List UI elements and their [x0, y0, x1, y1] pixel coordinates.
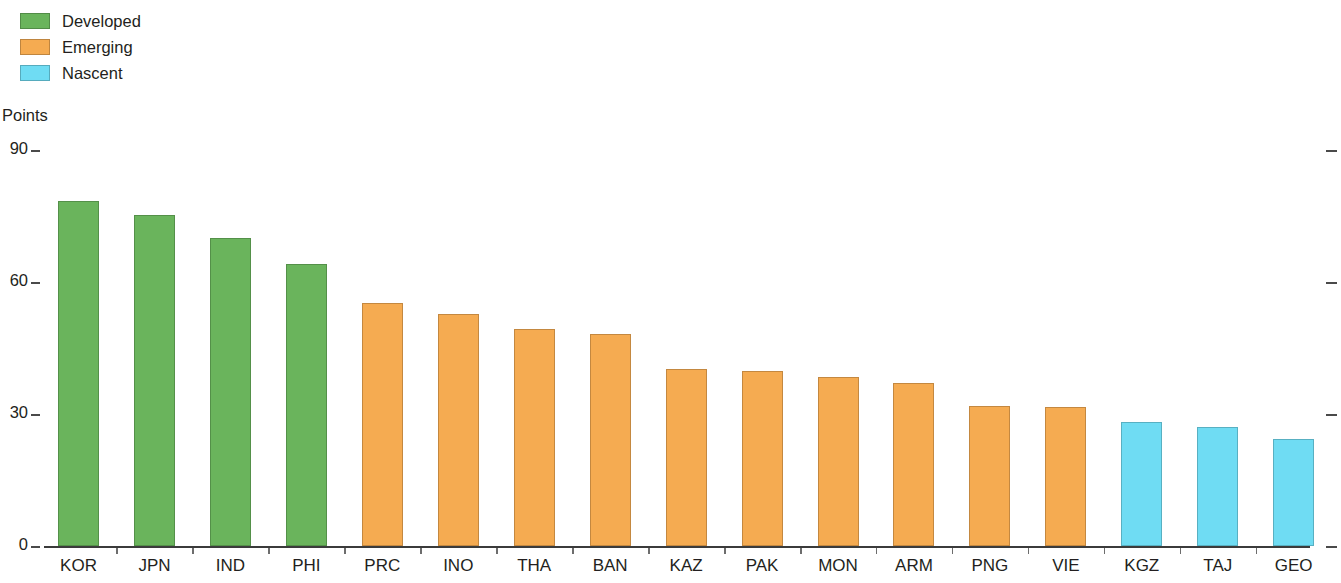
x-axis-tick-mark [952, 548, 954, 554]
y-axis-tick-label: 90 [10, 139, 28, 158]
x-axis-label: PNG [955, 556, 1024, 576]
x-axis-tick-mark [344, 548, 346, 554]
x-axis-tick-mark [572, 548, 574, 554]
x-axis-label: VIE [1031, 556, 1100, 576]
bar [1121, 422, 1162, 546]
x-axis-label: ARM [879, 556, 948, 576]
bar [58, 201, 99, 546]
y-axis-tick: 0 [0, 546, 44, 547]
y-axis-tick-mark [31, 546, 40, 548]
y-axis-tick-mark [31, 282, 40, 284]
y-axis-tick-mark [31, 150, 40, 152]
y-axis-tick-mark-right [1326, 546, 1337, 548]
y-axis-tick-mark-right [1326, 414, 1337, 416]
bar [362, 303, 403, 546]
bar [1273, 439, 1314, 546]
plot-area: 9060300 KORJPNINDPHIPRCINOTHABANKAZPAKMO… [0, 0, 1341, 583]
bar [742, 371, 783, 546]
bar-chart-figure: DevelopedEmergingNascent Points 9060300 … [0, 0, 1341, 583]
x-axis-tick-mark [1256, 548, 1258, 554]
x-axis-label: THA [500, 556, 569, 576]
y-axis-tick-label: 0 [19, 535, 28, 554]
x-axis-label: BAN [576, 556, 645, 576]
x-axis-tick-mark [116, 548, 118, 554]
x-axis-label: TAJ [1183, 556, 1252, 576]
y-axis-tick: 30 [0, 414, 44, 415]
x-axis-label: INO [424, 556, 493, 576]
bar [893, 383, 934, 546]
bar [514, 329, 555, 546]
x-axis-label: MON [804, 556, 873, 576]
bar [590, 334, 631, 546]
y-axis-tick-mark [31, 414, 40, 416]
x-axis-tick-mark [800, 548, 802, 554]
y-axis-tick: 60 [0, 282, 44, 283]
y-axis-tick-label: 60 [10, 271, 28, 290]
x-axis-tick-mark [724, 548, 726, 554]
bar [666, 369, 707, 546]
bar [1045, 407, 1086, 546]
x-axis-label: JPN [120, 556, 189, 576]
x-axis-tick-mark [876, 548, 878, 554]
x-axis-tick-mark [420, 548, 422, 554]
bar [1197, 427, 1238, 546]
x-axis-label: PHI [272, 556, 341, 576]
y-axis-tick: 90 [0, 150, 44, 151]
bar [438, 314, 479, 546]
x-axis-label: PRC [348, 556, 417, 576]
x-axis-label: IND [196, 556, 265, 576]
x-axis-label: KOR [44, 556, 113, 576]
x-axis-tick-mark [496, 548, 498, 554]
x-axis-tick-mark [1028, 548, 1030, 554]
y-axis-tick-mark-right [1326, 150, 1337, 152]
x-axis-label: KGZ [1107, 556, 1176, 576]
x-axis-tick-mark [1180, 548, 1182, 554]
x-axis-line [44, 546, 1310, 548]
bar [286, 264, 327, 546]
x-axis-tick-mark [268, 548, 270, 554]
y-axis-tick-mark-right [1326, 282, 1337, 284]
bar [134, 215, 175, 546]
bar [210, 238, 251, 546]
y-axis-tick-label: 30 [10, 403, 28, 422]
x-axis-tick-mark [192, 548, 194, 554]
x-axis-label: PAK [728, 556, 797, 576]
bar [818, 377, 859, 546]
x-axis-label: KAZ [652, 556, 721, 576]
x-axis-label: GEO [1259, 556, 1328, 576]
bar [969, 406, 1010, 546]
x-axis-tick-mark [1104, 548, 1106, 554]
x-axis-tick-mark [648, 548, 650, 554]
